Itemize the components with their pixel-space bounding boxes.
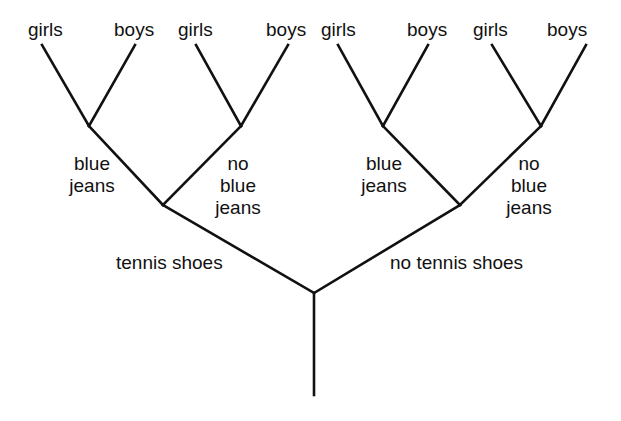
label-line: blue (66, 153, 118, 175)
label-line: blue (358, 153, 410, 175)
leaf-line-2 (89, 45, 135, 126)
leaf-line-3 (196, 45, 241, 126)
label-line: jeans (358, 175, 410, 197)
label-nts-no-blue-jeans: no blue jeans (497, 153, 561, 219)
label-tennis-shoes: tennis shoes (116, 252, 223, 274)
leaf-line-7 (492, 45, 541, 126)
label-ts-blue-jeans: blue jeans (66, 153, 118, 197)
label-line: blue (206, 175, 270, 197)
label-line: no (497, 153, 561, 175)
leaf-line-8 (541, 45, 586, 126)
leaf-label: girls (178, 19, 213, 41)
label-nts-blue-jeans: blue jeans (358, 153, 410, 197)
label-line: no (206, 153, 270, 175)
label-ts-no-blue-jeans: no blue jeans (206, 153, 270, 219)
tree-diagram: girls boys girls boys girls boys girls b… (0, 0, 621, 421)
leaf-label: boys (114, 19, 154, 41)
leaf-line-4 (241, 45, 288, 126)
leaf-line-5 (338, 45, 383, 126)
leaf-line-6 (383, 45, 428, 126)
label-no-tennis-shoes: no tennis shoes (390, 252, 523, 274)
label-line: jeans (206, 197, 270, 219)
leaf-label: girls (28, 19, 63, 41)
branch-no-tennis-shoes (314, 205, 460, 293)
leaf-label: boys (547, 19, 587, 41)
leaf-label: boys (266, 19, 306, 41)
label-line: jeans (66, 175, 118, 197)
leaf-line-1 (42, 45, 89, 126)
leaf-label: girls (473, 19, 508, 41)
label-line: jeans (497, 197, 561, 219)
leaf-label: boys (407, 19, 447, 41)
leaf-label: girls (321, 19, 356, 41)
label-line: blue (497, 175, 561, 197)
